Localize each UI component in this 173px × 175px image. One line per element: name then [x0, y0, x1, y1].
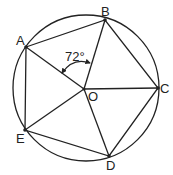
center-label-o: O	[88, 89, 98, 104]
diagram-svg: 72° A B C D E O	[0, 0, 173, 175]
vertex-label-e: E	[16, 131, 25, 146]
vertex-label-c: C	[160, 81, 169, 96]
pentagon-diagram: 72° A B C D E O	[0, 0, 173, 175]
vertex-label-d: D	[106, 158, 115, 173]
vertex-label-b: B	[101, 4, 110, 19]
vertex-label-a: A	[16, 33, 25, 48]
angle-label: 72°	[65, 49, 85, 64]
